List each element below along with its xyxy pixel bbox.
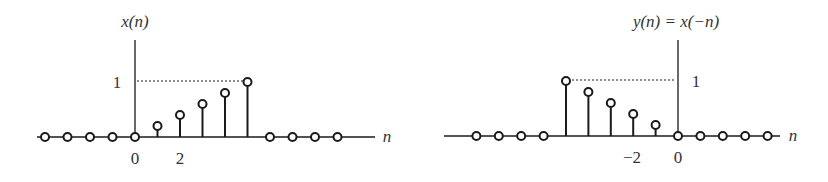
left-stem-plot: x(n) 1 n 0 2	[37, 12, 391, 168]
stem-marker	[674, 132, 682, 140]
left-stems	[41, 78, 342, 141]
stem-marker	[540, 132, 548, 140]
stem-marker	[176, 111, 184, 119]
stem-marker	[696, 132, 704, 140]
stem-marker	[266, 133, 274, 141]
stem-marker	[764, 132, 772, 140]
stem-marker	[472, 132, 480, 140]
stem-marker	[652, 121, 660, 129]
stem-marker	[86, 133, 94, 141]
stem-marker	[629, 110, 637, 118]
stem-marker	[741, 132, 749, 140]
stem-marker	[199, 100, 207, 108]
stem-marker	[64, 133, 72, 141]
stem-marker	[109, 133, 117, 141]
stem-marker	[289, 133, 297, 141]
stem-marker	[334, 133, 342, 141]
right-xtick-0: 0	[674, 148, 683, 167]
signal-diagrams: x(n) 1 n 0 2 y(n) = x(−n) 1 n −2 0	[0, 0, 828, 182]
right-stem-plot: y(n) = x(−n) 1 n −2 0	[444, 12, 797, 167]
stem-marker	[584, 88, 592, 96]
stem-marker	[495, 132, 503, 140]
left-ylabel: x(n)	[120, 12, 149, 31]
stem-marker	[517, 132, 525, 140]
stem-marker	[221, 89, 229, 97]
right-xtick-minus2: −2	[623, 148, 641, 167]
stem-marker	[311, 133, 319, 141]
left-ytick-1: 1	[113, 73, 122, 92]
right-ytick-1: 1	[692, 72, 701, 91]
stem-marker	[719, 132, 727, 140]
stem-marker	[607, 99, 615, 107]
left-xlabel: n	[383, 127, 392, 146]
left-xtick-0: 0	[131, 149, 140, 168]
stem-marker	[41, 133, 49, 141]
stem-marker	[154, 122, 162, 130]
right-xlabel: n	[789, 126, 798, 145]
right-ylabel: y(n) = x(−n)	[631, 12, 720, 31]
stem-marker	[244, 78, 252, 86]
stem-marker	[562, 77, 570, 85]
stem-marker	[131, 133, 139, 141]
left-xtick-2: 2	[176, 149, 185, 168]
right-stems	[472, 77, 771, 140]
